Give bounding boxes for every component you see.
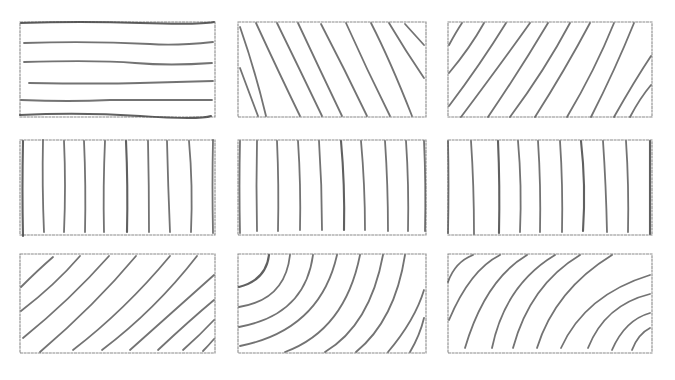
sketch-sheet <box>0 0 675 380</box>
panel-diagonal-ascending-2 <box>20 254 215 353</box>
panel-vertical-lines-3 <box>448 140 652 235</box>
panel-vertical-lines-1 <box>20 140 215 236</box>
panel-horizontal-lines <box>20 22 215 118</box>
panel-concentric-arcs-bottom-right <box>448 254 652 353</box>
panel-vertical-lines-2 <box>238 140 426 235</box>
panel-diagonal-descending <box>238 22 426 117</box>
panel-diagonal-ascending <box>448 22 652 117</box>
panel-concentric-arcs-top-left <box>238 254 426 353</box>
